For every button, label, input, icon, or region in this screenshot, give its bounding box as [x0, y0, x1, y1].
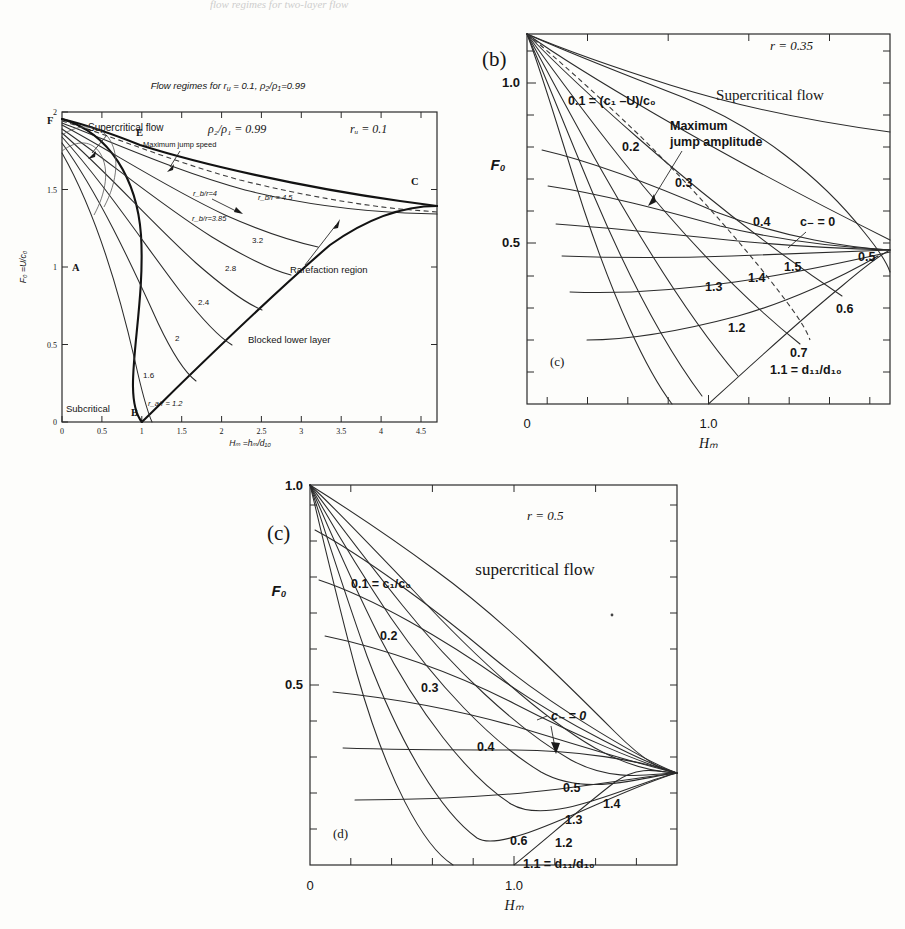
- panel-c-label-c-0p5: 0.5: [563, 781, 580, 795]
- svg-text:0.5: 0.5: [97, 427, 107, 436]
- panel-c-legend-c-minus: c₋ = 0: [551, 709, 586, 723]
- panel-c-label-d-1p3: 1.3: [565, 813, 582, 827]
- panel-c-label-supercritical: supercritical flow: [475, 560, 595, 579]
- svg-text:0: 0: [60, 427, 64, 436]
- panel-c-label-c-0p2: 0.2: [380, 629, 397, 643]
- label-rb-r-3p85: r_b/r=3.85: [192, 214, 227, 223]
- panel-c-plot-frame: [310, 485, 677, 865]
- leader-rb-r-4: [212, 199, 238, 212]
- label-ratio-2: 2: [175, 334, 180, 343]
- label-ratio-1p2: r_a/r = 1.2: [148, 399, 183, 408]
- panel-c-y-axis-label: F₀: [271, 582, 286, 599]
- scan-speck: [611, 614, 614, 617]
- panel-b-label-d-1p5: 1.5: [784, 260, 801, 274]
- curve-b-c-0p7: [527, 34, 672, 404]
- panel-c-label-d-1p2: 1.2: [555, 836, 572, 850]
- panel-c-label-c-0p3: 0.3: [421, 681, 438, 695]
- panel-c-ytick-1p0: 1.0: [285, 478, 303, 493]
- panel-b-label-d-1p3: 1.3: [705, 280, 722, 294]
- panel-a-title: Flow regimes for ru = 0.1, ρ2/ρ1=0.99: [151, 80, 306, 92]
- panel-b-legend-dd: 1.1 = d₁₁/d₁₀: [770, 363, 842, 377]
- panel-c-xtick-1p0: 1.0: [505, 878, 523, 893]
- label-ratio-2p8: 2.8: [225, 264, 237, 273]
- curve-c-c-0p5: [310, 485, 677, 841]
- svg-text:2: 2: [220, 427, 224, 436]
- panel-b-legend-def: 0.1 = (c₁ –U)/c₀: [568, 94, 656, 108]
- curve-b-c-0p6: [527, 34, 702, 396]
- svg-text:1.5: 1.5: [177, 427, 187, 436]
- curve-c-d-1p2: [355, 773, 677, 800]
- annot-density-ratio: ρ₂/ρ₁ = 0.99: [207, 122, 266, 136]
- svg-text:A: A: [72, 262, 80, 273]
- curve-ghost-2: [62, 143, 106, 215]
- curve-ratio-2p8: [62, 129, 291, 275]
- panel-b-label-maxjump-line1: Maximum: [670, 119, 728, 133]
- svg-text:C: C: [411, 176, 419, 187]
- svg-text:3.5: 3.5: [336, 427, 346, 436]
- panel-b-ytick-0p5: 0.5: [502, 235, 520, 250]
- curve-c-c-minus-zero: [310, 485, 677, 773]
- label-max-jump-speed: Maximum jump speed: [143, 140, 216, 149]
- panel-b-label-c-0p6: 0.6: [836, 302, 853, 316]
- svg-text:0.5: 0.5: [47, 341, 57, 350]
- panel-b-label-d-1p4: 1.4: [748, 271, 765, 285]
- svg-text:1: 1: [53, 263, 57, 272]
- panel-b-xtick-1p0: 1.0: [699, 416, 717, 431]
- annot-ru: rᵤ = 0.1: [350, 122, 387, 136]
- panel-c-label-d-1p4: 1.4: [603, 797, 620, 811]
- label-blocked-lower-layer: Blocked lower layer: [248, 334, 330, 345]
- curve-ratio-2p4: [62, 133, 262, 310]
- panel-a: Flow regimes for ru = 0.1, ρ2/ρ1=0.99: [0, 75, 460, 445]
- curve-c-c-0p1: [310, 485, 677, 773]
- panel-c-ytick-0p5: 0.5: [285, 677, 303, 692]
- panel-c-inner-tag: (d): [333, 826, 348, 841]
- panel-a-plot-frame: [62, 112, 437, 422]
- panel-b-label-supercritical: Supercritical flow: [716, 87, 824, 103]
- panel-b-ytick-1p0: 1.0: [502, 75, 520, 90]
- curve-c-c-0p4: [310, 485, 677, 811]
- panel-b-inner-tag: (c): [550, 354, 564, 369]
- panel-a-y-axis-label: F₀ =U/c₀: [18, 250, 28, 283]
- label-rb-r-4: r_b/r=4: [193, 189, 217, 198]
- svg-text:1.5: 1.5: [47, 186, 57, 195]
- panel-a-x-axis-label: Hₘ =hₘ/d₁₀: [229, 438, 271, 448]
- arrowhead-supercritical-a: [88, 151, 96, 159]
- panel-b-legend-c-minus: c₋ = 0: [800, 215, 835, 229]
- panel-b-plot-frame: [527, 34, 890, 404]
- panel-c-annot-r: r = 0.5: [527, 508, 564, 523]
- panel-a-y-ticks: [62, 112, 437, 422]
- panel-b-label-c-0p4: 0.4: [753, 215, 770, 229]
- label-ratio-2p4: 2.4: [198, 298, 210, 307]
- label-ratio-1p6: 1.6: [143, 371, 155, 380]
- curve-c-c-0p2: [310, 485, 677, 776]
- label-rarefaction-region: Rarefaction region: [290, 264, 368, 275]
- panel-c-label-c-0p6: 0.6: [510, 834, 527, 848]
- label-subcritical: Subcritical: [66, 403, 110, 414]
- svg-text:3: 3: [299, 427, 303, 436]
- panel-b: 1.0 0.5 0 1.0 F₀ Hₘ (b) (c) r = 0.35 Sup…: [470, 10, 905, 460]
- panel-c-tag: (c): [267, 521, 290, 545]
- svg-text:2.5: 2.5: [256, 427, 266, 436]
- curve-rarefaction-boundary: [142, 206, 437, 422]
- panel-b-xtick-0: 0: [523, 416, 530, 431]
- curve-b-d-1p4: [562, 250, 890, 258]
- panel-b-label-d-1p2: 1.2: [728, 321, 745, 335]
- curve-ratio-1p2: [62, 153, 152, 422]
- svg-text:0: 0: [53, 418, 57, 427]
- label-ratio-3p2: 3.2: [252, 236, 264, 245]
- curve-ratio-2: [62, 137, 232, 345]
- panel-c-legend-dd: 1.1 = d₁₁/d₁₀: [523, 857, 595, 871]
- panel-c-label-c-0p4: 0.4: [477, 740, 494, 754]
- panel-b-label-maxjump-line2: jump amplitude: [669, 135, 762, 149]
- curve-c-d-1p6: [319, 580, 677, 773]
- panel-a-y-tick-labels: 0 0.5 1 1.5 2: [47, 108, 57, 427]
- panel-b-tag: (b): [482, 47, 507, 71]
- arrowhead-rb-r-4: [234, 207, 243, 214]
- panel-c-x-ticks: [351, 485, 637, 865]
- curve-b-d-1p7: [542, 150, 890, 250]
- curve-c-d-1p4: [333, 692, 677, 773]
- svg-text:4: 4: [379, 427, 383, 436]
- panel-b-label-c-0p3: 0.3: [675, 176, 692, 190]
- svg-text:F: F: [47, 115, 53, 126]
- panel-b-x-axis-label: Hₘ: [698, 436, 718, 451]
